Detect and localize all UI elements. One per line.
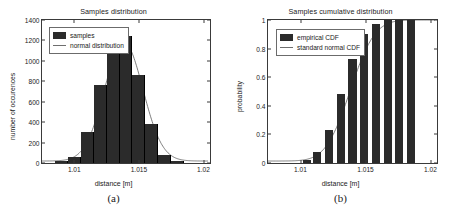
x-tick-mark <box>300 20 301 23</box>
y-tick-mark <box>42 60 45 61</box>
histogram-bar <box>132 75 145 163</box>
cdf-bar <box>303 160 311 163</box>
y-tick-mark <box>434 20 437 21</box>
y-tick-mark <box>434 163 437 164</box>
y-tick-label: 400 <box>28 119 39 126</box>
plot-area-a: samples normal distribution 020040060080… <box>41 19 211 164</box>
y-tick-mark <box>207 40 210 41</box>
legend-item-empirical-cdf[interactable]: empirical CDF <box>280 33 360 42</box>
y-tick-mark <box>268 134 271 135</box>
x-tick-label: 1.02 <box>197 166 210 173</box>
y-tick-mark <box>42 101 45 102</box>
y-tick-mark <box>268 163 271 164</box>
y-tick-mark <box>207 20 210 21</box>
y-tick-label: 1 <box>262 17 266 24</box>
x-tick-mark <box>203 160 204 163</box>
y-tick-mark <box>42 81 45 82</box>
x-tick-label: 1.02 <box>424 166 437 173</box>
x-tick-mark <box>138 20 139 23</box>
histogram-bar <box>120 36 133 163</box>
legend-item-normal-distribution[interactable]: normal distribution <box>53 41 124 50</box>
y-tick-mark <box>268 20 271 21</box>
y-tick-mark <box>268 48 271 49</box>
x-tick-label: 1.01 <box>294 166 307 173</box>
x-axis-label-a: distance [m] <box>0 180 227 187</box>
cdf-bar <box>325 130 333 163</box>
y-tick-mark <box>42 122 45 123</box>
y-tick-label: 200 <box>28 139 39 146</box>
line-swatch-icon <box>53 42 66 49</box>
histogram-bar <box>81 132 94 163</box>
y-tick-mark <box>268 77 271 78</box>
cdf-bar <box>384 20 392 163</box>
chart-title-b: Samples cumulative distribution <box>227 7 454 16</box>
cdf-bar <box>337 94 345 163</box>
filled-square-icon <box>53 32 66 39</box>
panel-cumulative-distribution: Samples cumulative distribution probabil… <box>227 0 454 217</box>
y-tick-mark <box>207 60 210 61</box>
filled-square-icon <box>280 34 293 41</box>
y-tick-label: 0.8 <box>256 45 265 52</box>
caption-b: (b) <box>227 192 454 204</box>
legend-label-samples: samples <box>70 32 95 39</box>
chart-title-a: Samples distribution <box>0 7 227 16</box>
plot-area-b: empirical CDF standard normal CDF 00.20.… <box>267 19 438 164</box>
y-axis-label-b: probability <box>236 81 243 112</box>
y-tick-label: 1000 <box>25 57 40 64</box>
y-tick-label: 600 <box>28 98 39 105</box>
cdf-bar <box>372 24 380 163</box>
histogram-bar <box>55 161 68 163</box>
y-tick-label: 1200 <box>25 37 40 44</box>
y-tick-mark <box>42 142 45 143</box>
y-tick-mark <box>434 105 437 106</box>
x-axis-label-b: distance [m] <box>227 180 454 187</box>
x-tick-label: 1.015 <box>357 166 374 173</box>
y-tick-label: 800 <box>28 78 39 85</box>
y-tick-mark <box>434 48 437 49</box>
y-tick-mark <box>207 122 210 123</box>
x-tick-mark <box>74 20 75 23</box>
y-tick-label: 0 <box>262 160 266 167</box>
x-tick-mark <box>74 160 75 163</box>
x-tick-mark <box>430 160 431 163</box>
legend-label-normal-distribution: normal distribution <box>70 42 124 49</box>
legend-b: empirical CDF standard normal CDF <box>276 29 365 56</box>
x-tick-label: 1.01 <box>68 166 81 173</box>
y-tick-label: 1400 <box>25 17 40 24</box>
x-tick-mark <box>365 160 366 163</box>
histogram-bar <box>158 155 171 163</box>
y-tick-mark <box>42 40 45 41</box>
histogram-bar <box>171 161 184 163</box>
y-tick-label: 0.2 <box>256 131 265 138</box>
y-tick-mark <box>42 20 45 21</box>
legend-item-samples[interactable]: samples <box>53 31 124 40</box>
cdf-bar <box>407 20 415 163</box>
y-tick-mark <box>207 81 210 82</box>
x-tick-mark <box>430 20 431 23</box>
caption-a: (a) <box>0 192 227 204</box>
y-tick-mark <box>434 77 437 78</box>
y-tick-mark <box>207 142 210 143</box>
y-tick-mark <box>268 105 271 106</box>
figure-container: Samples distribution number of occurence… <box>0 0 454 217</box>
y-tick-mark <box>42 163 45 164</box>
y-tick-mark <box>207 101 210 102</box>
y-tick-label: 0.6 <box>256 74 265 81</box>
x-tick-mark <box>203 20 204 23</box>
histogram-bar <box>145 124 158 163</box>
x-tick-mark <box>138 160 139 163</box>
y-tick-mark <box>207 163 210 164</box>
y-tick-label: 0.4 <box>256 102 265 109</box>
line-swatch-icon <box>280 44 293 51</box>
histogram-bar <box>94 85 107 163</box>
histogram-bar <box>107 36 120 163</box>
x-tick-mark <box>365 20 366 23</box>
x-tick-label: 1.015 <box>131 166 148 173</box>
cdf-bar <box>313 152 321 163</box>
cdf-bar <box>395 20 403 163</box>
legend-label-empirical-cdf: empirical CDF <box>297 34 339 41</box>
legend-item-standard-normal-cdf[interactable]: standard normal CDF <box>280 43 360 52</box>
y-axis-label-a: number of occurences <box>9 73 16 140</box>
y-tick-mark <box>434 134 437 135</box>
x-tick-mark <box>300 160 301 163</box>
